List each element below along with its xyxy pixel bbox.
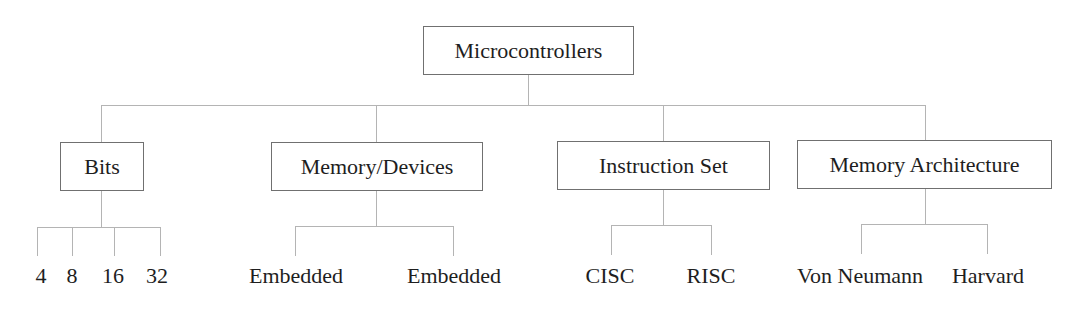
connector-memory-devices-bus — [295, 226, 454, 227]
connector-to-instruction-set — [663, 105, 664, 141]
category-label-instruction-set: Instruction Set — [599, 153, 728, 179]
connector-to-memory-architecture — [925, 105, 926, 140]
category-node-instruction-set: Instruction Set — [557, 141, 770, 190]
connector-bits-32 — [160, 227, 161, 256]
connector-bits-16 — [114, 227, 115, 256]
connector-memory-architecture-down — [925, 189, 926, 224]
leaf-von-neumann: Von Neumann — [797, 262, 923, 290]
connector-root-down — [528, 75, 529, 105]
connector-instruction-set-down — [663, 190, 664, 225]
leaf-harvard: Harvard — [952, 262, 1024, 290]
connector-bits-down — [101, 191, 102, 227]
connector-instruction-set-risc — [711, 225, 712, 255]
connector-memory-architecture-von-neumann — [861, 224, 862, 254]
leaf-bits-16: 16 — [102, 262, 124, 290]
leaf-cisc: CISC — [586, 262, 635, 290]
leaf-bits-8: 8 — [67, 262, 78, 290]
connector-instruction-set-bus — [611, 225, 712, 226]
connector-memory-devices-embedded-1 — [295, 226, 296, 256]
category-node-memory-devices: Memory/Devices — [271, 142, 483, 191]
connector-memory-architecture-bus — [861, 224, 988, 225]
category-label-memory-architecture: Memory Architecture — [830, 152, 1020, 178]
connector-to-bits — [101, 105, 102, 142]
leaf-bits-4: 4 — [36, 262, 47, 290]
connector-to-memory-devices — [376, 105, 377, 142]
leaf-risc: RISC — [687, 262, 736, 290]
connector-bits-4 — [37, 227, 38, 256]
category-label-bits: Bits — [84, 154, 119, 180]
root-label: Microcontrollers — [455, 38, 603, 64]
connector-bits-bus — [37, 227, 161, 228]
category-label-memory-devices: Memory/Devices — [301, 154, 454, 180]
connector-level1-bus — [101, 105, 926, 106]
leaf-embedded-2: Embedded — [407, 262, 501, 290]
leaf-embedded-1: Embedded — [249, 262, 343, 290]
leaf-bits-32: 32 — [146, 262, 168, 290]
connector-memory-devices-down — [376, 191, 377, 226]
connector-memory-devices-embedded-2 — [453, 226, 454, 256]
connector-instruction-set-cisc — [611, 225, 612, 255]
connector-bits-8 — [72, 227, 73, 256]
root-node-microcontrollers: Microcontrollers — [423, 26, 634, 75]
category-node-memory-architecture: Memory Architecture — [797, 140, 1052, 189]
connector-memory-architecture-harvard — [987, 224, 988, 254]
category-node-bits: Bits — [60, 142, 144, 191]
